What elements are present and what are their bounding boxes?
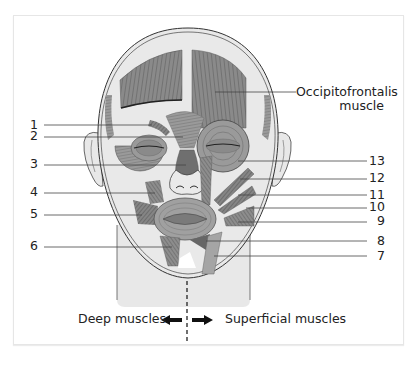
label-10: 10: [369, 201, 385, 214]
label-line1: Occipitofrontalis: [296, 85, 384, 99]
label-5: 5: [30, 208, 38, 221]
arrow-right-icon: [192, 315, 213, 325]
face-muscle-illustration: [0, 0, 409, 372]
label-line2: muscle: [296, 99, 384, 113]
orbicularis-oris-muscle: [154, 198, 216, 240]
label-9: 9: [369, 215, 385, 228]
label-8: 8: [369, 235, 385, 248]
label-7: 7: [369, 250, 385, 263]
label-4: 4: [30, 186, 38, 199]
caption-superficial-muscles: Superficial muscles: [225, 311, 346, 326]
label-13: 13: [369, 155, 385, 168]
occipitofrontalis-label: Occipitofrontalis muscle: [296, 85, 384, 113]
label-2: 2: [30, 130, 38, 143]
label-6: 6: [30, 240, 38, 253]
label-12: 12: [369, 172, 385, 185]
label-3: 3: [30, 158, 38, 171]
caption-deep-muscles: Deep muscles: [78, 311, 166, 326]
